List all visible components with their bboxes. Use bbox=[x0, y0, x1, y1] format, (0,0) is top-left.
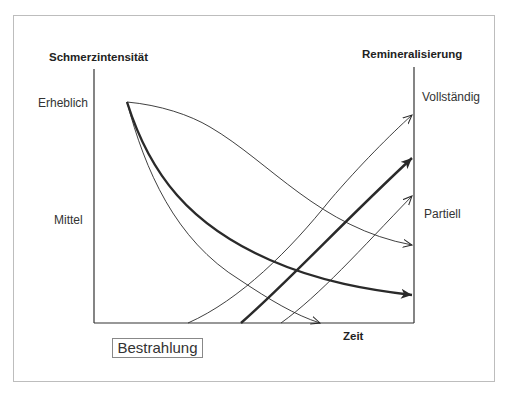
remineralization-curves bbox=[188, 115, 412, 323]
remin-curve-late bbox=[281, 196, 412, 323]
diagram-canvas bbox=[0, 0, 507, 396]
pain-curve-slow bbox=[127, 102, 412, 245]
pain-curves bbox=[127, 102, 412, 323]
remin-curve-average bbox=[241, 158, 412, 323]
remin-curve-early bbox=[188, 115, 412, 323]
axes bbox=[94, 67, 414, 323]
